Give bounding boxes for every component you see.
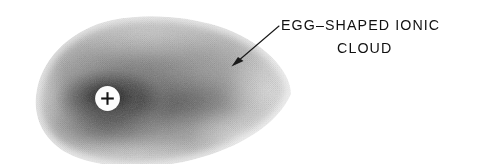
annotation-label-line-2: CLOUD (337, 40, 392, 55)
annotation-label-line-1: EGG–SHAPED IONIC (281, 17, 440, 32)
egg-shaped-ionic-cloud (20, 5, 314, 164)
positive-ion-marker (95, 86, 120, 111)
grain-speckle (20, 5, 310, 164)
figure-canvas: EGG–SHAPED IONIC CLOUD (0, 0, 479, 164)
